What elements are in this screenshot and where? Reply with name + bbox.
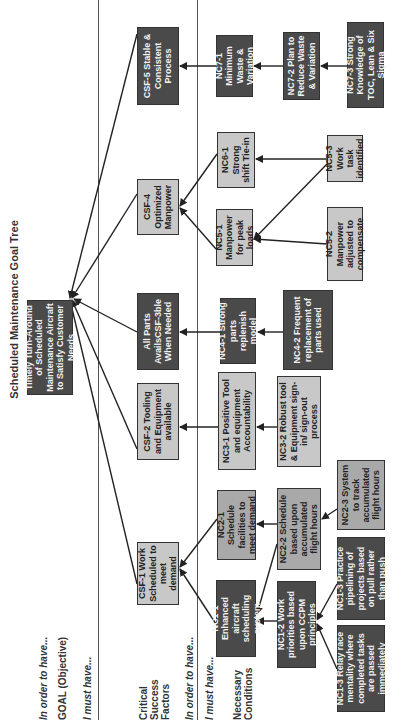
diagram-title: Scheduled Maintenance Goal Tree [8, 0, 20, 724]
nc7-3-box: NC7-3 Strong Knowledge of TOC, Lean & Si… [347, 22, 384, 108]
nc4-1-box: NC4-1 Strong parts replenish model [220, 298, 256, 364]
nc1-3-pipelining-box: NC1-3 Practice pipelining of projects ba… [337, 537, 385, 620]
necessary-conditions-label: Necessary Conditions [232, 660, 254, 720]
nc1-1-box: NC1-1 Enhanced aircraft scheduling syste… [216, 580, 256, 657]
nc5-3-box: NC5-3 Work task identified [327, 135, 363, 182]
goal-objective-label: GOAL (Objective) [57, 637, 68, 720]
nc5-2-box: NC5-2 Manpower adjusted to compensate [327, 207, 363, 281]
nc6-1-box: NC6-1 Strong shift Tie-in [217, 132, 255, 188]
nc3-2-box: NC3-2 Robust tool & Equipment sign-in/ s… [277, 376, 321, 467]
nc7-1-box: NC7-1 Minimum Waste & Variation [216, 35, 253, 97]
nc1-3-relay-race-box: NC1-3 Relay race mentality where complet… [337, 625, 385, 712]
csf-3-box: All Parts AvailsCSF-3ble When Needed [137, 293, 179, 370]
goal-tree-diagram: Scheduled Maintenance Goal Tree In order… [0, 0, 401, 724]
i-must-have-label-2: I must have... [204, 657, 215, 720]
i-must-have-label-1: I must have... [82, 657, 93, 720]
nc5-1-box: NC5-1 Manpower for peak loads [216, 209, 253, 266]
csf-2-box: CSF-2 Tooling and Equipment available [137, 383, 179, 460]
nc4-2-box: NC4-2 Frequent replacement of parts used [283, 290, 333, 370]
nc2-2-box: NC2-2 Schedule based upon accumulated fl… [277, 488, 321, 570]
critical-success-factors-label: Critical Success Factors [138, 660, 171, 720]
in-order-to-have-label-2: In order to have... [184, 637, 195, 720]
in-order-to-have-label-1: In order to have... [38, 637, 49, 720]
divider-csf-nc [197, 0, 198, 720]
csf-5-box: CSF-5 Stable & Consistent Process [137, 27, 179, 105]
nc7-2-box: NC7-2 Plan to Reduce Waste & Variation [283, 32, 320, 100]
divider-goal-csf [98, 0, 99, 720]
csf-1-box: CSF-1 Work Scheduled to meet demand [137, 542, 179, 605]
nc2-3-box: NC2-3 System to track accumulated flight… [337, 460, 385, 530]
nc1-2-box: NC1-2 Work priorities based upon CCPM pr… [277, 581, 316, 668]
nc2-1-box: NC2-1 Schedule facilities to meet demand [217, 490, 256, 560]
goal-box: Timely Turn-Around of Scheduled Maintena… [27, 300, 73, 395]
nc3-1-box: NC3-1 Positive Tool and equipment Accoun… [218, 372, 256, 470]
csf-4-box: CSF-4 Optimized Manpower [137, 179, 179, 235]
